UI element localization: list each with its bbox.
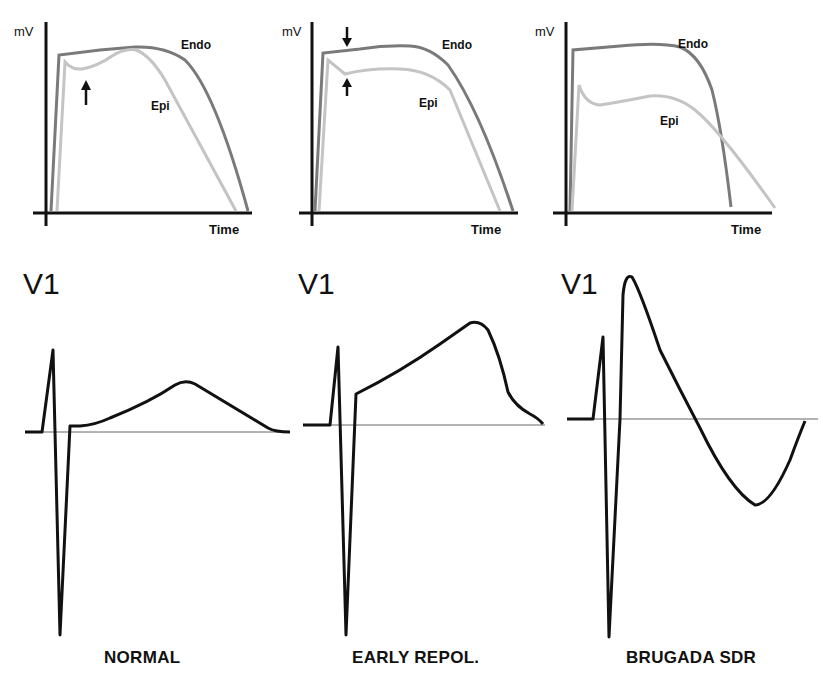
ap-plot-normal [33,22,252,226]
x-axis-label: Time [731,222,761,237]
arrow-up-icon [342,78,352,96]
ap-plot-early-repol [299,22,518,226]
epi-label: Epi [419,96,438,110]
epi-curve [572,85,775,211]
epi-label: Epi [151,99,170,113]
caption-normal: NORMAL [104,648,180,668]
lead-label: V1 [561,267,598,301]
caption-early-repol: EARLY REPOL. [352,648,479,668]
x-axis-label: Time [209,222,239,237]
epi-curve [57,50,236,211]
ecg-trace-normal [25,350,290,635]
figure-canvas [0,0,823,675]
lead-label: V1 [23,267,60,301]
endo-label: Endo [678,37,708,51]
arrow-down-icon [342,27,352,47]
caption-brugada: BRUGADA SDR [626,648,756,668]
x-axis-label: Time [471,222,501,237]
ecg-trace-brugada [567,276,805,637]
endo-label: Endo [442,38,472,52]
y-axis-label: mV [282,24,302,39]
endo-curve [51,47,248,211]
y-axis-label: mV [14,24,34,39]
ecg-trace-early-repol [303,322,543,635]
endo-label: Endo [181,38,211,52]
endo-curve [570,44,731,211]
arrow-up-icon [81,80,91,105]
epi-label: Epi [660,114,679,128]
y-axis-label: mV [535,24,555,39]
lead-label: V1 [298,267,335,301]
